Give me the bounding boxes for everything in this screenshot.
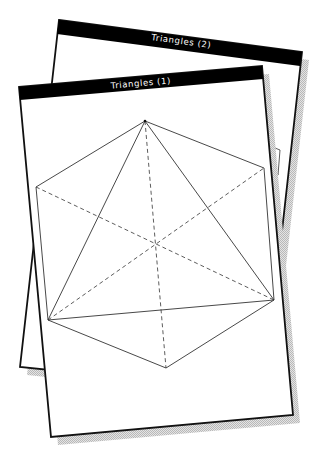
window-triangles-1[interactable]: Triangles (1)	[19, 66, 300, 445]
vertex-top	[144, 120, 147, 123]
window-body	[19, 66, 293, 437]
desktop: Triangles (2) Triangles (1)	[0, 0, 320, 452]
